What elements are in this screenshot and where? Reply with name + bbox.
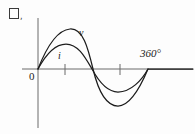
origin-label: 0: [29, 71, 35, 82]
corner-trailing-mark: ,: [20, 13, 23, 21]
curve-label-current: i: [58, 51, 61, 61]
axis-end-label: 360°: [140, 48, 161, 59]
curve-voltage: [38, 29, 193, 106]
corner-missing-glyph: ,: [9, 8, 23, 21]
tofu-box-icon: [9, 8, 19, 19]
waveform-figure: , 0 v i 360°: [0, 0, 195, 134]
curve-label-voltage: v: [79, 28, 83, 38]
waveform-plot: [0, 0, 195, 134]
